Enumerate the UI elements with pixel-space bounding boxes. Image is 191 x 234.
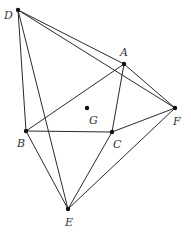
point-F: [173, 106, 177, 110]
label-C: C: [113, 138, 122, 151]
points: [16, 8, 177, 211]
edge-DE: [18, 10, 68, 209]
point-A: [122, 62, 126, 66]
label-F: F: [172, 115, 181, 128]
geometry-diagram: D A F G B C E: [0, 0, 191, 234]
edge-CF: [112, 108, 175, 132]
point-B: [24, 129, 28, 133]
label-E: E: [64, 216, 73, 229]
edge-AF: [124, 64, 175, 108]
edge-BC: [26, 131, 112, 132]
point-E: [66, 207, 70, 211]
edge-CE: [68, 132, 112, 209]
edge-DF: [18, 10, 175, 108]
point-D: [16, 8, 20, 12]
edge-EF: [68, 108, 175, 209]
label-A: A: [119, 46, 128, 59]
label-D: D: [3, 9, 13, 22]
label-B: B: [16, 137, 25, 150]
labels: D A F G B C E: [3, 9, 181, 229]
edge-AC: [112, 64, 124, 132]
edge-AB: [26, 64, 124, 131]
label-G: G: [89, 114, 98, 127]
point-G: [85, 106, 89, 110]
edge-DA: [18, 10, 124, 64]
edge-DB: [18, 10, 26, 131]
point-C: [110, 130, 114, 134]
edges: [18, 10, 175, 209]
edge-BE: [26, 131, 68, 209]
